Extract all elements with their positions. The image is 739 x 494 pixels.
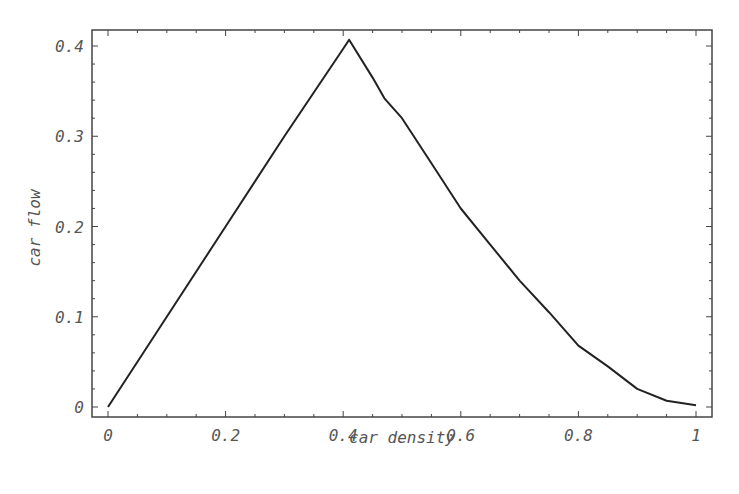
y-tick-label: 0.4 [55, 37, 84, 56]
y-tick-label: 0.1 [55, 308, 84, 327]
y-axis-label: car flow [25, 188, 44, 266]
x-tick-label: 0.8 [564, 426, 593, 445]
x-tick-label: 0.2 [211, 426, 240, 445]
y-tick-labels: 00.10.20.30.4 [55, 37, 84, 417]
x-tick-label: 0 [103, 426, 113, 445]
plot-frame [92, 30, 712, 417]
x-axis-label: car density [349, 428, 455, 447]
y-tick-label: 0.3 [55, 127, 84, 146]
data-line [108, 40, 696, 407]
y-tick-label: 0 [74, 398, 84, 417]
chart: 00.20.40.60.81 00.10.20.30.4 car density… [0, 0, 739, 494]
line-chart: 00.20.40.60.81 00.10.20.30.4 car density… [0, 0, 739, 494]
plot-border [92, 30, 712, 417]
x-tick-label: 1 [691, 426, 701, 445]
axis-ticks [92, 30, 712, 417]
y-tick-label: 0.2 [55, 218, 84, 237]
